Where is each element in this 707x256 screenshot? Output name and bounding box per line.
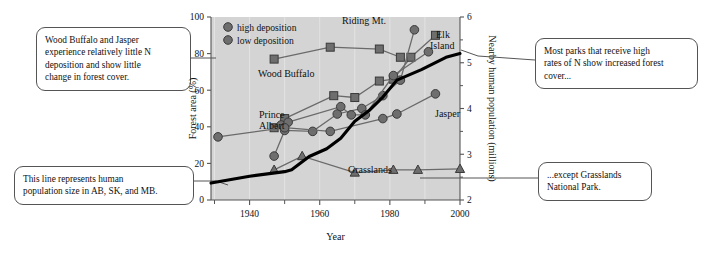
data-point bbox=[347, 111, 356, 120]
y2-tick-label: 6 bbox=[467, 12, 472, 22]
series-label-elk-island-2: Island bbox=[430, 40, 454, 51]
legend-label-0: high deposition bbox=[237, 22, 297, 33]
x-axis-title: Year bbox=[326, 231, 345, 242]
data-point bbox=[336, 102, 345, 111]
y2-tick-label: 5 bbox=[467, 58, 472, 68]
y-tick-label: 0 bbox=[199, 195, 204, 205]
y2-axis-title: Nearby human population (millions) bbox=[486, 35, 498, 181]
data-point bbox=[270, 55, 278, 63]
legend-marker bbox=[224, 23, 233, 32]
data-point bbox=[393, 110, 402, 119]
legend-marker bbox=[224, 36, 233, 45]
chart-canvas: Wood BuffaloPrinceAlbertRiding Mt.ElkIsl… bbox=[0, 0, 707, 256]
series-label-jasper: Jasper bbox=[435, 108, 461, 119]
data-point bbox=[330, 92, 338, 100]
data-point bbox=[308, 127, 317, 136]
x-tick-label: 2000 bbox=[451, 209, 470, 219]
y-tick-label: 80 bbox=[195, 49, 205, 59]
data-point bbox=[326, 43, 334, 51]
x-tick-label: 1960 bbox=[310, 209, 329, 219]
y2-tick-label: 2 bbox=[467, 195, 472, 205]
data-point bbox=[410, 26, 419, 35]
data-point bbox=[375, 77, 383, 85]
legend-label-1: low deposition bbox=[237, 35, 294, 46]
y-axis-title: Forest area (%) bbox=[187, 78, 199, 140]
data-point bbox=[326, 127, 335, 136]
data-point bbox=[379, 114, 388, 123]
y2-tick-label: 3 bbox=[467, 150, 472, 160]
x-tick-label: 1980 bbox=[380, 209, 399, 219]
data-point bbox=[214, 133, 223, 142]
y2-tick-label: 4 bbox=[467, 104, 472, 114]
series-label-prince-albert: Prince bbox=[259, 109, 285, 120]
y-tick-label: 20 bbox=[195, 159, 205, 169]
data-point bbox=[396, 53, 404, 61]
series-label-riding-mt-: Riding Mt. bbox=[342, 15, 386, 26]
data-point bbox=[389, 71, 398, 80]
series-label-prince-albert-2: Albert bbox=[259, 120, 285, 131]
data-point bbox=[431, 90, 440, 99]
data-point bbox=[351, 94, 359, 102]
data-point bbox=[270, 152, 279, 161]
series-label-grasslands: Grasslands bbox=[348, 164, 392, 175]
y-tick-label: 100 bbox=[190, 12, 205, 22]
x-tick-label: 1940 bbox=[240, 209, 259, 219]
series-label-wood-buffalo: Wood Buffalo bbox=[258, 68, 315, 79]
series-label-elk-island: Elk bbox=[436, 29, 450, 40]
data-point bbox=[375, 45, 383, 53]
figure-root: Wood Buffalo and Jasper experience relat… bbox=[0, 0, 707, 256]
